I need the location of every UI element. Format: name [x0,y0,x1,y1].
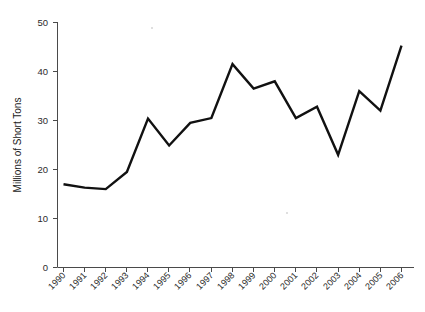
y-tick-label-10: 10 [37,213,48,224]
y-axis-title: Millions of Short Tons [12,98,23,193]
y-tick-label-30: 30 [37,115,48,126]
y-tick-label-50: 50 [37,17,48,28]
artifact-speck [286,212,288,214]
chart-canvas: 0 10 20 30 40 50 Millions of Short Tons [0,0,425,312]
chart-background [0,0,425,312]
y-tick-label-20: 20 [37,164,48,175]
artifact-speck [151,27,153,29]
y-tick-label-0: 0 [43,262,48,273]
line-chart: 0 10 20 30 40 50 Millions of Short Tons [0,0,425,312]
y-tick-label-40: 40 [37,66,48,77]
